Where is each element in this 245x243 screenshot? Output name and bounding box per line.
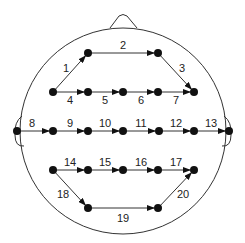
edge-label: 12: [170, 117, 182, 129]
edge-label: 14: [64, 156, 76, 168]
electrode-node: [84, 166, 92, 174]
electrode-node: [154, 204, 162, 212]
edge-label: 17: [170, 156, 182, 168]
edge-label: 1: [63, 62, 69, 74]
electrode-node: [49, 127, 57, 135]
edge-label: 18: [57, 188, 69, 200]
edge-label: 15: [99, 156, 111, 168]
electrode-node: [225, 127, 233, 135]
electrode-node: [190, 166, 198, 174]
electrode-node: [119, 166, 127, 174]
electrode-node: [119, 127, 127, 135]
edge-arrow-3: [158, 53, 191, 89]
electrode-node: [84, 49, 92, 57]
edge-label: 9: [67, 117, 73, 129]
edge-label: 11: [135, 117, 146, 129]
eeg-montage-diagram: 1234567891011121314151617181920: [0, 0, 245, 243]
edge-label: 10: [99, 117, 111, 129]
electrode-node: [154, 49, 162, 57]
electrode-node: [84, 88, 92, 96]
edge-label: 7: [173, 94, 179, 106]
electrode-node: [13, 127, 21, 135]
edge-label: 5: [102, 94, 108, 106]
edge-label: 6: [138, 94, 144, 106]
edge-label: 8: [29, 117, 35, 129]
edge-label: 13: [205, 117, 217, 129]
edge-label: 20: [177, 188, 189, 200]
electrode-node: [84, 127, 92, 135]
nose-icon: [110, 15, 137, 29]
edge-label: 19: [117, 212, 129, 224]
electrode-node: [119, 88, 127, 96]
electrode-node: [84, 204, 92, 212]
electrode-node: [154, 166, 162, 174]
electrode-node: [190, 88, 198, 96]
electrode-node: [154, 88, 162, 96]
edge-label: 2: [120, 39, 126, 51]
edge-label: 4: [67, 94, 73, 106]
electrode-node: [49, 88, 57, 96]
edge-arrow-1: [53, 56, 85, 92]
electrode-node: [190, 127, 198, 135]
electrode-node: [155, 127, 163, 135]
edge-label: 3: [179, 62, 185, 74]
electrode-node: [49, 166, 57, 174]
edge-label: 16: [135, 156, 147, 168]
